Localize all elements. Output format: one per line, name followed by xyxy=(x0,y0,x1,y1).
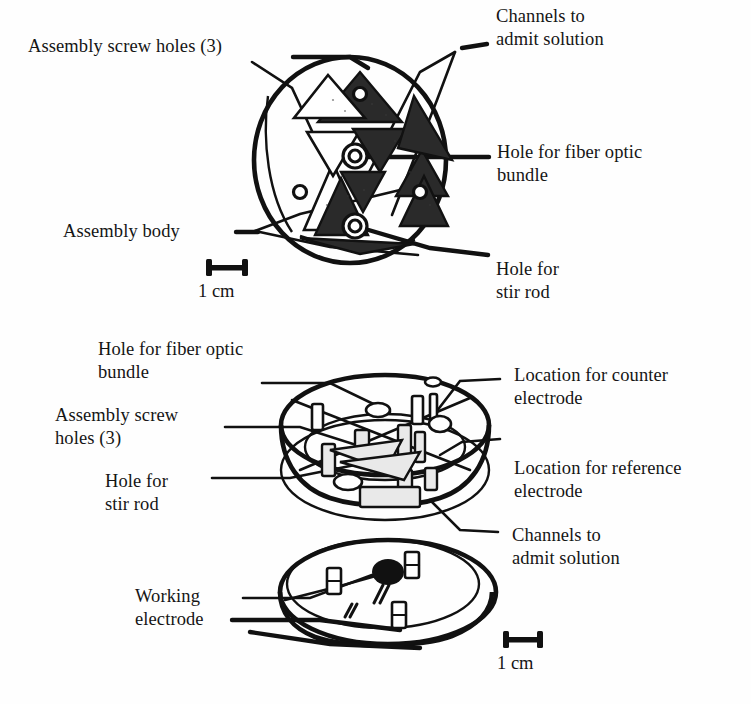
assembly-screw-hole-3 xyxy=(414,186,427,199)
label-location-for-counter-electrode: Location for counter electrode xyxy=(514,364,668,410)
assembly-screw-hole-1 xyxy=(354,88,367,101)
working-electrode-disc xyxy=(372,559,404,585)
label-location-for-reference-electrode: Location for reference electrode xyxy=(514,457,682,503)
assembly-screw-hole-2 xyxy=(294,186,307,199)
figure-canvas: Assembly screw holes (3) Channels to adm… xyxy=(0,0,751,704)
label-hole-for-fiber-optic-bundle-top: Hole for fiber optic bundle xyxy=(497,141,642,187)
screw-hole-post-a xyxy=(312,404,323,430)
label-channels-to-admit-solution-top: Channels to admit solution xyxy=(496,5,604,51)
label-working-electrode: Working electrode xyxy=(135,585,204,631)
label-assembly-body: Assembly body xyxy=(63,220,180,243)
fiber-optic-bore-top xyxy=(366,403,390,417)
hole-fiber-optic-inner xyxy=(349,150,361,162)
screw-hole-post-b xyxy=(412,396,423,424)
label-channels-to-admit-solution-lower: Channels to admit solution xyxy=(512,524,620,570)
label-hole-for-fiber-optic-bundle-lower: Hole for fiber optic bundle xyxy=(98,338,243,384)
reference-electrode-bore xyxy=(429,416,451,432)
label-assembly-screw-holes-lower: Assembly screw holes (3) xyxy=(55,404,178,450)
scale-caption-top: 1 cm xyxy=(198,281,234,302)
scale-caption-bottom: 1 cm xyxy=(497,653,533,674)
label-assembly-screw-holes-top: Assembly screw holes (3) xyxy=(28,35,222,58)
exploded-cylinder-assembly xyxy=(281,375,489,520)
stir-rod-bore xyxy=(334,474,362,490)
counter-electrode-bore xyxy=(425,378,441,387)
label-hole-for-stir-rod-top: Hole for stir rod xyxy=(496,258,559,304)
exploded-base-disc xyxy=(250,540,496,648)
top-view-scale-bar xyxy=(206,259,248,276)
leader-channels-stub xyxy=(462,44,487,48)
channel-triangle-upper-right xyxy=(398,96,452,160)
leader-channels-admit-solution-lower xyxy=(430,500,498,532)
label-hole-for-stir-rod-lower: Hole for stir rod xyxy=(105,470,168,516)
exploded-view-scale-bar xyxy=(503,631,543,648)
channel-slot-front xyxy=(360,487,420,507)
hole-stir-rod-inner xyxy=(349,220,361,232)
